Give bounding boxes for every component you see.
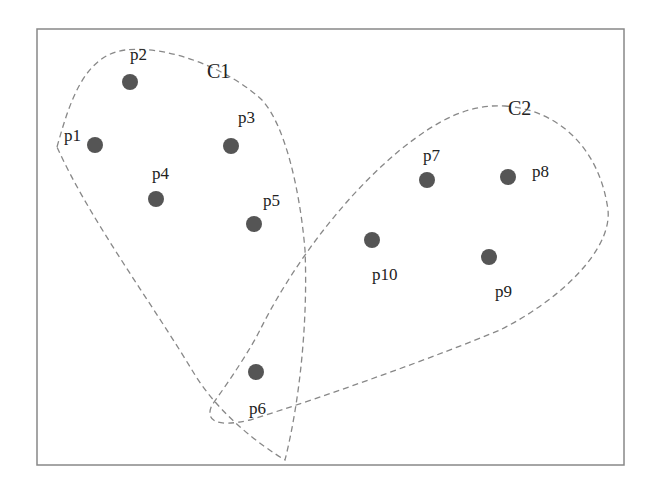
point-label-p8: p8 bbox=[532, 162, 549, 181]
point-label-p5: p5 bbox=[263, 191, 280, 210]
point-label-p10: p10 bbox=[372, 265, 398, 284]
point-p2 bbox=[122, 74, 138, 90]
point-label-p3: p3 bbox=[238, 108, 255, 127]
point-p8 bbox=[500, 169, 516, 185]
point-label-p9: p9 bbox=[495, 282, 512, 301]
cluster-label-c2: C2 bbox=[508, 97, 531, 119]
point-p3 bbox=[223, 138, 239, 154]
point-p7 bbox=[419, 172, 435, 188]
diagram-frame bbox=[37, 29, 624, 465]
point-p5 bbox=[246, 216, 262, 232]
point-label-p6: p6 bbox=[249, 399, 266, 418]
point-label-p2: p2 bbox=[130, 45, 147, 64]
point-label-p1: p1 bbox=[64, 126, 81, 145]
cluster-label-c1: C1 bbox=[207, 60, 230, 82]
point-label-p7: p7 bbox=[423, 146, 441, 165]
point-p4 bbox=[148, 191, 164, 207]
clustering-diagram: C1 C2 p1 p2 p3 p4 p5 p6 p7 p8 p9 p10 bbox=[0, 0, 658, 491]
point-p1 bbox=[87, 137, 103, 153]
point-label-p4: p4 bbox=[152, 164, 170, 183]
point-p10 bbox=[364, 232, 380, 248]
point-p6 bbox=[248, 364, 264, 380]
point-p9 bbox=[481, 249, 497, 265]
